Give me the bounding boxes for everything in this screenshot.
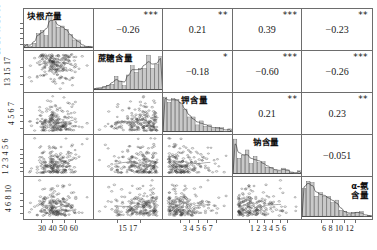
correlation-inner: **−0.23 [302,9,372,50]
x-tick-labels-col-4: 6 8 10 12 [322,224,354,233]
y-tick-labels-row-0: 19 30 40 50 60 [0,4,2,55]
scatter-cell-potassium-vs-sucrose [94,93,164,135]
y-tick-labels-row-4: 4 6 8 10 [5,185,14,213]
correlation-inner: ***−0.60 [233,51,302,92]
diagonal-histogram-sodium: 钠含量 [233,135,303,177]
significance-stars: *** [283,53,298,62]
scatter-cell-potassium-vs-root_yield [24,93,94,135]
x-tick-labels-col-1: 15 17 [119,224,138,233]
variable-label-line: 钠含量 [253,138,279,147]
significance-stars: *** [283,11,298,20]
x-tick-group-col-2: 3 4 5 6 7 [163,220,233,240]
correlation-value: 0.21 [233,107,302,118]
variable-label-line: 含量 [351,191,369,200]
x-tick-group-col-0: 30 40 50 60 [23,220,93,240]
x-tick-labels-col-2: 3 4 5 6 7 [183,224,213,233]
correlation-value: 0.39 [233,23,302,34]
variable-label-root_yield: 块根产量 [27,12,62,21]
scatter-cell-sodium-vs-root_yield [24,135,94,177]
correlation-cell-root_yield-sodium: ***0.39 [233,9,303,51]
scatter-cell-sodium-vs-sucrose [94,135,164,177]
correlation-cell-sucrose-sodium: ***−0.60 [233,51,303,93]
variable-label-alpha_amino_n: α-氨含量 [351,182,369,200]
correlation-inner: **0.21 [163,9,232,50]
y-tick-labels-row-3: 1 2 3 4 5 6 [0,138,9,174]
significance-stars: ** [218,11,228,20]
scatter-cell-sodium-vs-potassium [163,135,233,177]
x-tick-group-col-1: 15 17 [93,220,163,240]
correlation-value: −0.60 [233,65,302,76]
significance-stars: *** [353,53,368,62]
correlation-cell-sucrose-potassium: *−0.18 [163,51,233,93]
x-tick-labels-col-0: 30 40 50 60 [38,224,78,233]
scatterplot-matrix: 块根产量***−0.26**0.21***0.39**−0.23 蔗糖含量*−0… [23,8,373,220]
correlation-inner: **0.23 [302,93,372,134]
variable-label-sodium: 钠含量 [253,138,279,147]
x-tick-labels-col-3: 1 2 3 4 5 6 [250,224,286,233]
correlation-cell-sodium-alpha_amino_n: −0.051 [302,135,372,177]
correlation-value: −0.18 [163,65,232,76]
significance-stars: ** [358,95,368,104]
diagonal-histogram-alpha_amino_n: α-氨含量 [302,177,372,219]
correlation-cell-root_yield-alpha_amino_n: **−0.23 [302,9,372,51]
correlation-cell-potassium-sodium: **0.21 [233,93,303,135]
y-tick-labels-row-1: 13 15 17 [4,57,13,87]
correlation-inner: ***−0.26 [302,51,372,92]
scatter-cell-alpha_amino_n-vs-root_yield [24,177,94,219]
correlation-inner: *−0.18 [163,51,232,92]
significance-stars: * [223,53,228,62]
correlation-value: −0.23 [302,23,372,34]
significance-stars: ** [288,95,298,104]
significance-stars: ** [358,11,368,20]
scatter-cell-alpha_amino_n-vs-potassium [163,177,233,219]
variable-label-potassium: 钾含量 [181,96,207,105]
scatter-cell-alpha_amino_n-vs-sucrose [94,177,164,219]
correlation-value: −0.26 [302,65,372,76]
correlation-cell-sucrose-alpha_amino_n: ***−0.26 [302,51,372,93]
diagonal-histogram-root_yield: 块根产量 [24,9,94,51]
diagonal-histogram-potassium: 钾含量 [163,93,233,135]
correlation-cell-potassium-alpha_amino_n: **0.23 [302,93,372,135]
variable-label-line: 钾含量 [181,96,207,105]
correlation-inner: −0.051 [302,135,372,176]
correlation-value: −0.26 [94,23,163,34]
scatter-cell-alpha_amino_n-vs-sodium [233,177,303,219]
correlation-cell-root_yield-potassium: **0.21 [163,9,233,51]
x-axis: 30 40 50 60 15 17 3 4 5 6 7 1 2 3 4 5 6 … [23,220,373,240]
correlation-value: 0.23 [302,107,372,118]
correlation-inner: **0.21 [233,93,302,134]
correlation-cell-root_yield-sucrose: ***−0.26 [94,9,164,51]
variable-label-sucrose: 蔗糖含量 [98,54,133,63]
variable-label-line: 蔗糖含量 [98,54,133,63]
correlation-value: 0.21 [163,23,232,34]
x-tick-group-col-3: 1 2 3 4 5 6 [233,220,303,240]
x-tick-group-col-4: 6 8 10 12 [303,220,373,240]
correlation-value: −0.051 [302,149,372,160]
splom-figure: 19 30 40 50 60 13 15 17 4 5 6 7 1 2 3 4 … [0,0,377,250]
significance-stars: *** [143,11,158,20]
correlation-inner: ***0.39 [233,9,302,50]
diagonal-histogram-sucrose: 蔗糖含量 [94,51,164,93]
correlation-inner: ***−0.26 [94,9,163,50]
scatter-cell-sucrose-vs-root_yield [24,51,94,93]
y-tick-labels-row-2: 4 5 6 7 [7,102,16,125]
variable-label-line: 块根产量 [27,12,62,21]
